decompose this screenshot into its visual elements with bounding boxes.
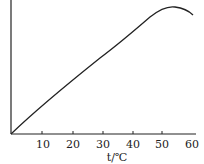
- tick-label: 40: [126, 138, 140, 151]
- tick-labels: 10 20 30 40 50 60: [36, 138, 199, 151]
- data-curve: [11, 7, 193, 134]
- tick-label: 10: [36, 138, 50, 151]
- x-axis-label: t/℃: [107, 151, 127, 164]
- chart: 10 20 30 40 50 60 t/℃: [0, 0, 204, 164]
- tick-label: 60: [185, 138, 199, 151]
- tick-label: 50: [155, 138, 169, 151]
- tick-label: 30: [96, 138, 110, 151]
- tick-label: 20: [66, 138, 80, 151]
